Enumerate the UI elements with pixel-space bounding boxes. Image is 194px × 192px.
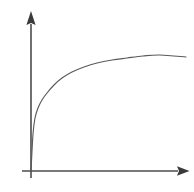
graph-figure: Line graph with unlabeled arrowed axes s… (0, 0, 194, 192)
graph-canvas (0, 0, 194, 192)
figure-background (0, 0, 194, 192)
